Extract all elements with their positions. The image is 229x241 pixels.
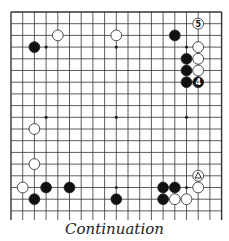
star-point (115, 46, 118, 49)
star-point (45, 46, 48, 49)
star-point (185, 46, 188, 49)
black-stone (169, 30, 180, 41)
star-point (185, 116, 188, 119)
white-stone (52, 30, 63, 41)
black-stone (169, 182, 180, 193)
black-stone (181, 65, 192, 76)
svg-text:4: 4 (195, 78, 201, 87)
black-stone (158, 182, 169, 193)
black-stone (64, 182, 75, 193)
star-point (185, 186, 188, 189)
white-stone (111, 30, 122, 41)
caption: Continuation (0, 220, 229, 238)
star-point (45, 116, 48, 119)
black-stone (29, 42, 40, 53)
go-board: 54 (0, 0, 229, 220)
white-stone (29, 124, 40, 135)
svg-text:5: 5 (195, 20, 201, 29)
star-point (115, 186, 118, 189)
black-stone (41, 182, 52, 193)
star-point (115, 116, 118, 119)
white-stone (17, 182, 28, 193)
white-stone (181, 194, 192, 205)
black-stone (158, 194, 169, 205)
white-stone (193, 182, 204, 193)
black-stone (181, 77, 192, 88)
white-stone (29, 159, 40, 170)
black-stone (181, 53, 192, 64)
white-stone (193, 65, 204, 76)
white-stone (193, 42, 204, 53)
white-stone (193, 53, 204, 64)
white-stone (169, 194, 180, 205)
black-stone (29, 194, 40, 205)
black-stone (111, 194, 122, 205)
